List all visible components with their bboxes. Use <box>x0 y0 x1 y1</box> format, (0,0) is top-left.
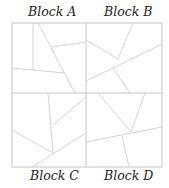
block-c-lines <box>12 93 86 167</box>
block-b-lines <box>86 23 162 93</box>
block-a-lines <box>12 23 86 93</box>
block-d-lines <box>86 93 162 167</box>
outer-frame <box>12 23 162 167</box>
block-diagram <box>0 0 169 188</box>
